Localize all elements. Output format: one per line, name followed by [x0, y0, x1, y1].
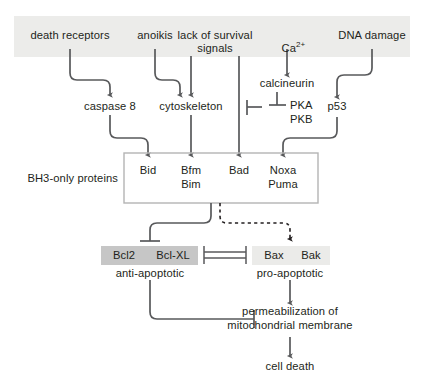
- stimulus-anoikis: anoikis: [137, 29, 173, 42]
- bh3-member-bad: Bad: [229, 164, 249, 177]
- pathway-connector-layer: Bax/Bak (dashed activation) -->: [0, 0, 424, 381]
- bh3-member-noxa: Noxa: [270, 164, 297, 177]
- stimulus-dna-damage: DNA damage: [338, 29, 406, 42]
- calcium-base-label: Ca: [282, 42, 297, 54]
- bh3-member-bid: Bid: [140, 164, 156, 177]
- stimulus-death-receptors: death receptors: [30, 29, 109, 42]
- bh3-member-bfm: Bfm: [181, 164, 201, 177]
- outcome-cell-death: cell death: [266, 360, 315, 373]
- effector-bak: Bak: [301, 249, 321, 262]
- effector-bcl2: Bcl2: [113, 249, 135, 262]
- mediator-pka: PKA: [290, 99, 313, 112]
- mediator-caspase-8: caspase 8: [84, 100, 136, 113]
- effector-bcl-xl: Bcl-XL: [156, 249, 190, 262]
- caption-anti-apoptotic: anti-apoptotic: [116, 267, 185, 280]
- bh3-member-bim: Bim: [181, 178, 201, 191]
- caption-pro-apoptotic: pro-apoptotic: [257, 267, 324, 280]
- edge-bcl2-inhibits-permeabilization: [150, 280, 254, 319]
- mediator-pkb: PKB: [290, 113, 313, 126]
- stimulus-lack-of-survival-signals-line2: signals: [197, 42, 233, 55]
- bh3-member-puma: Puma: [268, 178, 298, 191]
- apoptosis-pathway-diagram: Bax/Bak (dashed activation) --> death re…: [0, 0, 424, 381]
- edge-caspase8-to-bid: [110, 115, 148, 155]
- stimulus-calcium: Ca2+: [269, 29, 306, 69]
- mediator-p53: p53: [328, 100, 347, 113]
- outcome-permeabilization-line2: mitochondrial membrane: [227, 319, 352, 332]
- edge-bh3-inhibits-bcl2: [150, 203, 211, 241]
- effector-bax: Bax: [264, 249, 284, 262]
- mediator-cytoskeleton: cytoskeleton: [159, 100, 222, 113]
- stimulus-lack-of-survival-signals-line1: lack of survival: [178, 29, 253, 42]
- bh3-only-proteins-label: BH3-only proteins: [0, 172, 118, 185]
- mediator-calcineurin: calcineurin: [260, 77, 315, 90]
- calcium-superscript: 2+: [296, 40, 305, 49]
- outcome-permeabilization-line1: permeabilization of: [242, 305, 338, 318]
- edge-bh3-activates-bax-bak: [220, 203, 290, 239]
